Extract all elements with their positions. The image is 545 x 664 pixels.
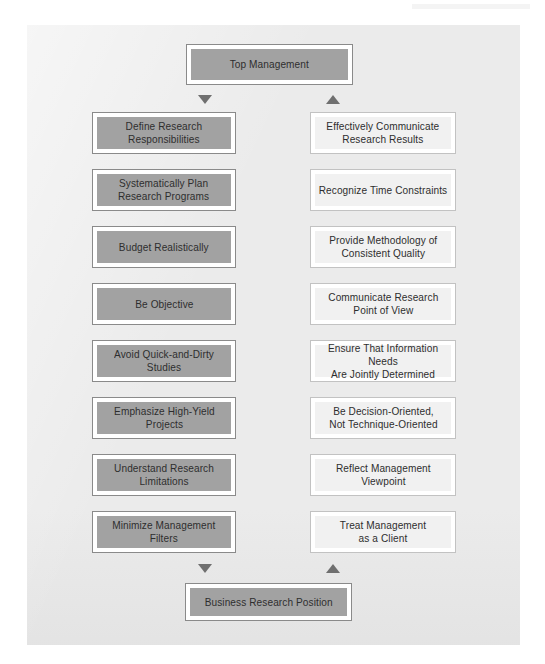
node-business-research-position-fill: Business Research Position: [190, 588, 347, 616]
node-left-8-label: Minimize Management Filters: [112, 519, 215, 545]
node-right-4-fill: Communicate Research Point of View: [315, 288, 451, 320]
node-right-7-label: Reflect Management Viewpoint: [336, 462, 431, 488]
node-left-2-label: Systematically Plan Research Programs: [118, 177, 209, 203]
node-left-6[interactable]: Emphasize High-Yield Projects: [92, 397, 236, 439]
scan-artifact: [412, 4, 530, 9]
node-left-5-label: Avoid Quick-and-Dirty Studies: [114, 348, 214, 374]
arrow-up-icon-bottom: [326, 564, 340, 573]
node-left-2-fill: Systematically Plan Research Programs: [97, 174, 231, 206]
node-business-research-position[interactable]: Business Research Position: [185, 583, 352, 621]
node-right-6-fill: Be Decision-Oriented, Not Technique-Orie…: [315, 402, 451, 434]
node-left-2[interactable]: Systematically Plan Research Programs: [92, 169, 236, 211]
node-left-1[interactable]: Define Research Responsibilities: [92, 112, 236, 154]
node-left-6-label: Emphasize High-Yield Projects: [114, 405, 215, 431]
node-right-4-label: Communicate Research Point of View: [328, 291, 438, 317]
node-right-3[interactable]: Provide Methodology of Consistent Qualit…: [310, 226, 456, 268]
node-top-management-label: Top Management: [230, 58, 309, 71]
node-left-1-label: Define Research Responsibilities: [126, 120, 203, 146]
node-right-5-label: Ensure That Information Needs Are Jointl…: [318, 342, 449, 381]
node-left-4-fill: Be Objective: [97, 288, 231, 320]
node-left-3-fill: Budget Realistically: [97, 231, 231, 263]
node-right-2-fill: Recognize Time Constraints: [315, 174, 451, 206]
arrow-up-icon-top: [326, 95, 340, 104]
node-left-7-fill: Understand Research Limitations: [97, 459, 231, 491]
node-left-1-fill: Define Research Responsibilities: [97, 117, 231, 149]
node-top-management[interactable]: Top Management: [186, 44, 353, 85]
node-right-3-label: Provide Methodology of Consistent Qualit…: [329, 234, 437, 260]
node-right-4[interactable]: Communicate Research Point of View: [310, 283, 456, 325]
node-right-6[interactable]: Be Decision-Oriented, Not Technique-Orie…: [310, 397, 456, 439]
node-right-2[interactable]: Recognize Time Constraints: [310, 169, 456, 211]
node-right-8-label: Treat Management as a Client: [340, 519, 426, 545]
node-left-8-fill: Minimize Management Filters: [97, 516, 231, 548]
node-right-1[interactable]: Effectively Communicate Research Results: [310, 112, 456, 154]
node-left-8[interactable]: Minimize Management Filters: [92, 511, 236, 553]
node-right-7-fill: Reflect Management Viewpoint: [315, 459, 451, 491]
node-left-7[interactable]: Understand Research Limitations: [92, 454, 236, 496]
node-right-5[interactable]: Ensure That Information Needs Are Jointl…: [310, 340, 456, 382]
node-left-5-fill: Avoid Quick-and-Dirty Studies: [97, 345, 231, 377]
node-left-5[interactable]: Avoid Quick-and-Dirty Studies: [92, 340, 236, 382]
node-left-4-label: Be Objective: [135, 298, 193, 311]
node-right-8-fill: Treat Management as a Client: [315, 516, 451, 548]
node-right-2-label: Recognize Time Constraints: [319, 184, 448, 197]
node-left-4[interactable]: Be Objective: [92, 283, 236, 325]
node-left-3[interactable]: Budget Realistically: [92, 226, 236, 268]
node-right-1-fill: Effectively Communicate Research Results: [315, 117, 451, 149]
node-right-8[interactable]: Treat Management as a Client: [310, 511, 456, 553]
arrow-down-icon-bottom: [198, 564, 212, 573]
node-right-7[interactable]: Reflect Management Viewpoint: [310, 454, 456, 496]
node-right-3-fill: Provide Methodology of Consistent Qualit…: [315, 231, 451, 263]
node-left-7-label: Understand Research Limitations: [114, 462, 214, 488]
node-left-6-fill: Emphasize High-Yield Projects: [97, 402, 231, 434]
node-right-1-label: Effectively Communicate Research Results: [327, 120, 440, 146]
node-right-5-fill: Ensure That Information Needs Are Jointl…: [315, 345, 451, 377]
node-right-6-label: Be Decision-Oriented, Not Technique-Orie…: [329, 405, 437, 431]
node-top-management-fill: Top Management: [191, 49, 348, 80]
arrow-down-icon-top: [198, 95, 212, 104]
node-left-3-label: Budget Realistically: [119, 241, 209, 254]
node-business-research-position-label: Business Research Position: [204, 596, 332, 609]
